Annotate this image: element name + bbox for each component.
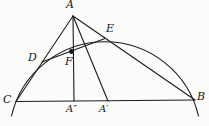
segment-AB (73, 16, 195, 100)
point-label-A-prime: A′ (99, 104, 109, 114)
point-label-A: A (66, 0, 74, 10)
geometry-diagram: A E D F C B A″ A′ (0, 0, 209, 126)
segment-CB (16, 100, 195, 102)
point-label-A-double-prime: A″ (66, 104, 77, 114)
point-label-F: F (65, 56, 73, 67)
point-F-dot (69, 49, 74, 54)
segment-A-Adoubleprime (73, 16, 74, 101)
point-label-D: D (28, 52, 37, 63)
point-label-E: E (106, 23, 114, 34)
segment-A-Aprime (73, 16, 108, 101)
point-label-C: C (3, 94, 11, 105)
point-label-B: B (197, 91, 205, 102)
